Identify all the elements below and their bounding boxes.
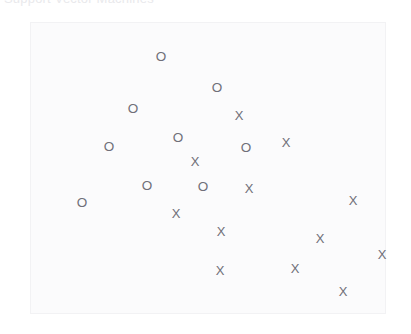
scatter-plot-surface: OOOOOOOOOXXXXXXXXXXXX	[31, 23, 385, 313]
scatter-marker-o: O	[77, 196, 88, 210]
scatter-marker-o: O	[198, 180, 209, 194]
scatter-marker-x: X	[235, 109, 244, 122]
scatter-marker-x: X	[349, 194, 358, 207]
scatter-marker-o: O	[212, 81, 223, 95]
page-title-strip: Support Vector Machines	[0, 0, 411, 9]
scatter-marker-x: X	[282, 136, 291, 149]
scatter-marker-o: O	[173, 131, 184, 145]
scatter-marker-x: X	[216, 264, 225, 277]
scatter-marker-o: O	[241, 141, 252, 155]
scatter-marker-x: X	[291, 262, 300, 275]
scatter-plot-panel: OOOOOOOOOXXXXXXXXXXXX	[30, 22, 386, 314]
scatter-marker-o: O	[104, 140, 115, 154]
scatter-marker-o: O	[156, 50, 167, 64]
scatter-marker-x: X	[339, 285, 348, 298]
page-title: Support Vector Machines	[4, 0, 154, 6]
scatter-marker-o: O	[128, 102, 139, 116]
scatter-marker-x: X	[172, 207, 181, 220]
scatter-marker-x: X	[378, 248, 387, 261]
scatter-marker-x: X	[245, 182, 254, 195]
scatter-marker-x: X	[191, 155, 200, 168]
scatter-marker-o: O	[142, 179, 153, 193]
scatter-marker-x: X	[217, 225, 226, 238]
scatter-marker-x: X	[316, 232, 325, 245]
